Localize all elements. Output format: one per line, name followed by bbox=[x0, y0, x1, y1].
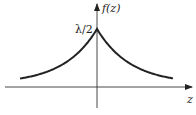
density-curve bbox=[20, 29, 173, 79]
x-axis-label: z bbox=[186, 93, 193, 106]
laplace-density-plot: f(z) λ/2 z bbox=[0, 0, 196, 115]
y-axis-label: f(z) bbox=[101, 2, 120, 15]
peak-label: λ/2 bbox=[75, 23, 93, 36]
